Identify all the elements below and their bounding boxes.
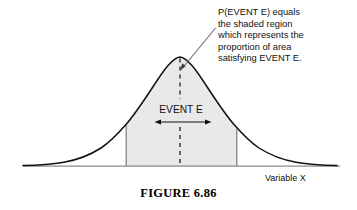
figure-container: EVENT E Variable X P(EVENT E) equals the… <box>0 0 357 210</box>
annotation-line-4: proportion of area <box>218 42 292 52</box>
annotation-line-2: the shaded region <box>218 19 292 29</box>
annotation-leader-line <box>180 28 215 71</box>
annotation-text-block: P(EVENT E) equals the shaded region whic… <box>217 7 304 63</box>
annotation-line-1: P(EVENT E) equals <box>218 7 300 17</box>
distribution-figure: EVENT E Variable X P(EVENT E) equals the… <box>0 0 357 210</box>
annotation-line-3: which represents the <box>217 30 304 40</box>
annotation-line-5: satisfying EVENT E. <box>218 53 302 63</box>
x-axis-label: Variable X <box>265 173 306 183</box>
figure-caption: FIGURE 6.86 <box>0 186 357 201</box>
event-e-label: EVENT E <box>159 104 203 115</box>
